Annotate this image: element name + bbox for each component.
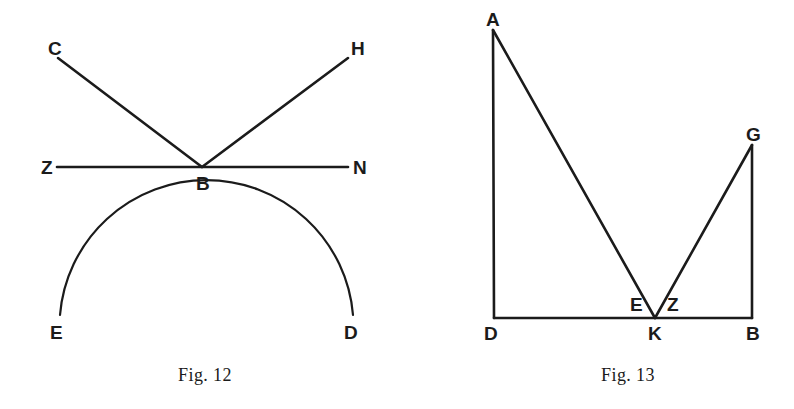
fig12-label-e: E [50, 322, 63, 343]
fig13-label-a: A [486, 9, 500, 30]
fig13-label-z: Z [667, 294, 679, 315]
fig12-label-c: C [48, 38, 62, 59]
fig13-side-da [493, 30, 494, 318]
fig13-label-g: G [746, 124, 761, 145]
fig12-label-h: H [351, 38, 365, 59]
fig13-label-b: B [746, 323, 760, 344]
fig13-segment-kg [655, 145, 752, 318]
fig13-label-e: E [630, 294, 643, 315]
fig12-caption: Fig. 12 [178, 365, 232, 385]
figure-12: C H Z N B E D Fig. 12 [41, 38, 367, 385]
figures-canvas: C H Z N B E D Fig. 12 A G D [0, 0, 794, 409]
fig12-ray-hb [202, 58, 348, 167]
fig13-caption: Fig. 13 [601, 365, 655, 385]
fig12-arc-ebd [60, 180, 353, 315]
fig12-label-b: B [196, 173, 210, 194]
fig12-label-z: Z [41, 157, 53, 178]
fig12-label-d: D [344, 322, 358, 343]
figure-sheet: C H Z N B E D Fig. 12 A G D [0, 0, 794, 409]
fig12-ray-cb [58, 58, 202, 167]
fig13-segment-ak [493, 30, 655, 318]
figure-13: A G D B K E Z Fig. 13 [484, 9, 761, 385]
fig12-label-n: N [353, 157, 367, 178]
fig13-label-d: D [484, 323, 498, 344]
fig13-label-k: K [648, 323, 662, 344]
